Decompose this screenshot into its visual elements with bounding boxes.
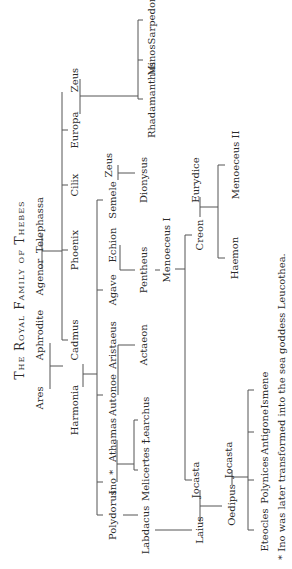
person-ino: Ino *: [108, 470, 118, 495]
person-haemon: Haemon: [230, 237, 240, 280]
person-ares: Ares: [35, 386, 45, 409]
person-agenor: Agenor: [35, 259, 45, 296]
person-polynices: Polynices: [260, 456, 270, 503]
person-zeus-1: Zeus: [70, 68, 80, 92]
person-phoenix: Phoenix: [70, 230, 80, 270]
person-aristaeus: Aristaeus: [108, 321, 118, 369]
diagram-title: The Royal Family of Thebes: [13, 200, 27, 379]
person-telephassa: Telephassa: [35, 197, 45, 253]
person-jocasta-2: Jocasta: [224, 442, 234, 479]
person-eurydice: Eurydice: [191, 157, 201, 202]
person-actaeon: Actaeon: [139, 324, 149, 365]
person-menoeceus-1: Menoeceus I: [162, 218, 172, 283]
footnote: * Ino was later transformed into the sea…: [276, 253, 287, 560]
person-jocasta-1: Jocasta: [191, 462, 201, 499]
person-polydorus: Polydorus: [108, 490, 118, 540]
person-semele: Semele: [108, 181, 118, 218]
person-creon: Creon: [195, 220, 205, 251]
person-minos: Minos: [147, 44, 157, 75]
person-echion: Echion: [108, 228, 118, 263]
person-agave: Agave: [108, 274, 118, 305]
person-ismene: Ismene: [260, 372, 270, 409]
person-cadmus: Cadmus: [70, 319, 80, 360]
person-harmonia: Harmonia: [70, 385, 80, 436]
person-dionysus: Dionysus: [139, 157, 149, 203]
person-melicertes: Melicertes †: [141, 439, 151, 501]
person-laius: Laius: [195, 516, 205, 543]
person-learchus: Learchus: [141, 397, 151, 444]
person-eteocles: Eteocles: [260, 508, 270, 551]
person-labdacus: Labdacus: [141, 506, 151, 555]
person-menoeceus-2: Menoeceus II: [231, 131, 241, 200]
person-oedipus: Oedipus: [227, 484, 237, 526]
person-pentheus: Pentheus: [139, 247, 149, 294]
family-tree-page: The Royal Family of Thebes Ares Aphrodit…: [0, 0, 292, 569]
person-athamas: Athamas: [108, 418, 118, 462]
person-sarpedon: Sarpedon: [147, 0, 157, 44]
person-autonoe: Autonoe: [108, 374, 118, 416]
person-europa: Europa: [70, 112, 80, 149]
person-cilix: Cilix: [70, 174, 80, 197]
person-aphrodite: Aphrodite: [35, 310, 45, 360]
person-antigone: Antigone: [260, 409, 270, 455]
person-zeus-2: Zeus: [104, 153, 114, 177]
